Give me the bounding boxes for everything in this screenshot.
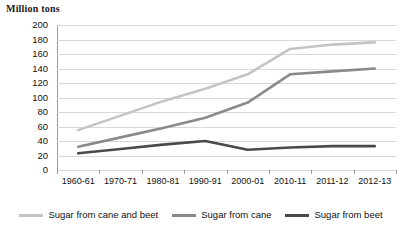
x-axis-tick-label: 1990-91 xyxy=(189,176,222,186)
series-line xyxy=(78,42,375,130)
x-axis-tick xyxy=(57,170,58,174)
y-axis-tick-label: 200 xyxy=(8,20,48,30)
line-chart: Million tons 020406080100120140160180200… xyxy=(0,0,402,231)
y-axis-tick-label: 80 xyxy=(8,107,48,117)
y-axis-tick-label: 140 xyxy=(8,64,48,74)
y-axis-tick-label: 180 xyxy=(8,35,48,45)
legend-label: Sugar from beet xyxy=(314,210,382,220)
legend-item[interactable]: Sugar from beet xyxy=(285,210,382,220)
x-axis-tick xyxy=(396,170,397,174)
x-axis-tick-label: 1960-61 xyxy=(62,176,95,186)
x-axis-tick xyxy=(354,170,355,174)
y-axis-tick-label: 160 xyxy=(8,49,48,59)
legend-swatch-icon xyxy=(19,214,43,217)
plot-area xyxy=(57,25,396,170)
y-axis-tick-label: 60 xyxy=(8,122,48,132)
x-axis-tick-label: 2010-11 xyxy=(274,176,306,186)
x-axis-tick-label: 2012-13 xyxy=(358,176,391,186)
x-axis-tick-label: 2011-12 xyxy=(316,176,348,186)
y-axis-title: Million tons xyxy=(6,3,60,14)
series-line xyxy=(78,141,375,153)
x-axis-tick-label: 2000-01 xyxy=(231,176,264,186)
y-axis-tick-label: 20 xyxy=(8,151,48,161)
x-axis-tick xyxy=(269,170,270,174)
x-axis-tick-label: 1970-71 xyxy=(104,176,137,186)
x-axis-tick xyxy=(311,170,312,174)
y-axis-tick-label: 0 xyxy=(8,165,48,175)
legend-item[interactable]: Sugar from cane xyxy=(172,210,271,220)
legend-swatch-icon xyxy=(172,214,196,217)
legend-label: Sugar from cane and beet xyxy=(48,210,158,220)
y-axis-tick-label: 40 xyxy=(8,136,48,146)
legend-swatch-icon xyxy=(285,214,309,217)
legend-item[interactable]: Sugar from cane and beet xyxy=(19,210,158,220)
x-axis-tick xyxy=(142,170,143,174)
chart-legend: Sugar from cane and beetSugar from caneS… xyxy=(0,206,402,224)
y-axis-tick-label: 120 xyxy=(8,78,48,88)
series-lines xyxy=(57,25,396,170)
y-axis-tick-label: 100 xyxy=(8,93,48,103)
x-axis-tick-labels: 1960-611970-711980-811990-912000-012010-… xyxy=(57,176,396,190)
x-axis-tick-label: 1980-81 xyxy=(146,176,179,186)
legend-label: Sugar from cane xyxy=(201,210,271,220)
x-axis-tick xyxy=(227,170,228,174)
x-axis-tick xyxy=(99,170,100,174)
x-axis-tick xyxy=(184,170,185,174)
